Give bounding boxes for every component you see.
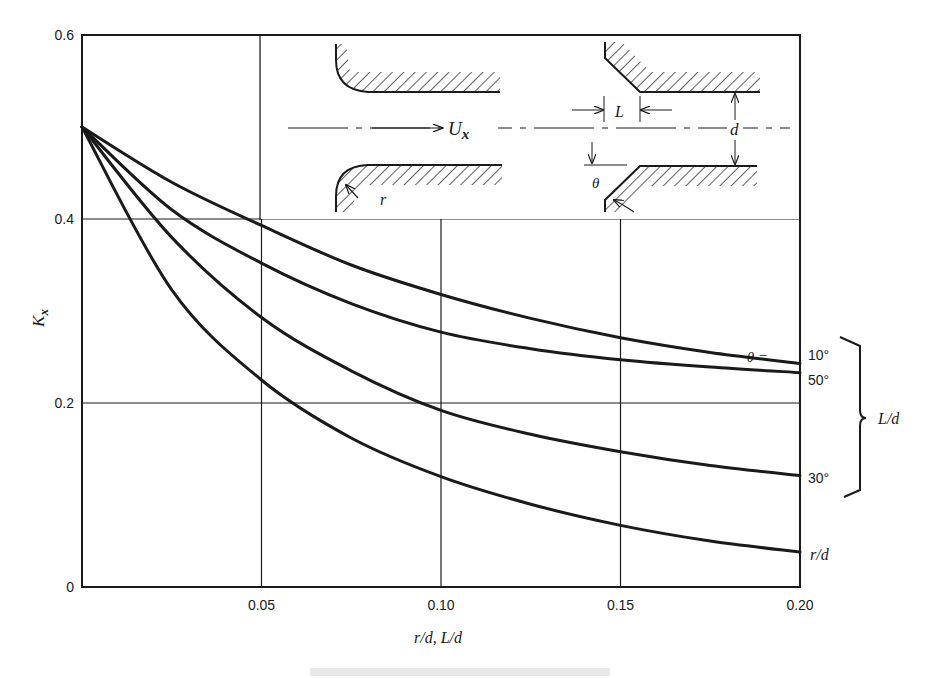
y-tick-label: 0 <box>66 579 74 595</box>
caption-fragment <box>310 668 610 676</box>
x-axis-ticks: 0.050.100.150.20 <box>248 597 814 613</box>
radius-label: r <box>380 191 387 208</box>
theta-prefix-label: θ = <box>747 349 768 365</box>
curve-label-30deg: 30° <box>808 470 829 486</box>
x-tick-label: 0.05 <box>248 597 275 613</box>
y-tick-label: 0.4 <box>55 211 75 227</box>
curve-label-50deg: 50° <box>808 372 829 388</box>
loss-coefficient-chart: r Ux L d θ <box>0 0 930 678</box>
y-tick-label: 0.2 <box>55 395 75 411</box>
y-axis-label: Kx <box>29 309 51 328</box>
y-tick-label: 0.6 <box>55 27 75 43</box>
length-label: L <box>614 103 624 120</box>
inset-diagram: r Ux L d θ <box>260 35 799 220</box>
x-tick-label: 0.15 <box>607 597 634 613</box>
ld-bracket <box>840 337 866 497</box>
x-tick-label: 0.20 <box>786 597 813 613</box>
diameter-label: d <box>730 120 739 139</box>
angle-label: θ <box>592 175 600 191</box>
curve-label-rd: r/d <box>810 546 830 563</box>
curve-label-10deg: 10° <box>808 347 829 363</box>
x-axis-label: r/d, L/d <box>414 629 463 646</box>
x-tick-label: 0.10 <box>427 597 454 613</box>
y-axis-ticks: 00.20.40.6 <box>55 27 75 595</box>
bracket-label: L/d <box>877 410 900 427</box>
